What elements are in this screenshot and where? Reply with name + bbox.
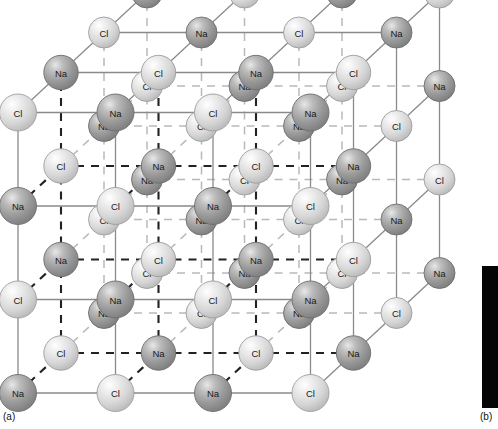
atom-label: Na (433, 268, 446, 279)
atom-chlorine: Cl (292, 188, 329, 225)
atom-sodium: Na (186, 17, 217, 48)
atom-label: Cl (392, 121, 401, 132)
atom-label: Cl (209, 295, 218, 306)
atom-label: Cl (349, 255, 358, 266)
atom-label: Na (347, 161, 360, 172)
sphere-chlorine (424, 0, 455, 8)
caption-b: (b) (480, 411, 492, 422)
atom-chlorine: Cl (239, 149, 273, 183)
sphere-sodium (327, 0, 358, 8)
atom-label: Cl (435, 175, 444, 186)
atom-label: Cl (100, 28, 109, 39)
atom-sodium: Na (239, 242, 273, 276)
atom-chlorine: Cl (381, 111, 412, 142)
atom-chlorine: Cl (424, 164, 455, 195)
atom-label: Cl (154, 255, 163, 266)
atom-label: Cl (252, 161, 261, 172)
atom-label: Cl (14, 108, 23, 119)
atom-chlorine: Cl (97, 188, 134, 225)
atom-label: Na (304, 108, 317, 119)
atom-sodium: Na (336, 336, 370, 370)
atom-chlorine: Cl (239, 336, 273, 370)
atom-chlorine: Cl (44, 336, 78, 370)
atom-label: Na (390, 28, 403, 39)
atom-label: Na (250, 68, 263, 79)
atom-chlorine: Cl (89, 17, 120, 48)
atom-label: Cl (392, 308, 401, 319)
atom-label: Na (195, 28, 208, 39)
atom-sodium: Na (141, 336, 175, 370)
atom-chlorine: Cl (141, 55, 175, 89)
atom-chlorine: Cl (381, 298, 412, 329)
atom-sodium: Na (44, 242, 78, 276)
atom-label: Na (55, 68, 68, 79)
atom-chlorine: Cl (292, 375, 329, 412)
atom-sodium: Na (0, 375, 37, 412)
atom-sodium: Na (424, 71, 455, 102)
panel-b-photo (482, 266, 498, 408)
atom-chlorine: Cl (195, 281, 232, 318)
atom-sodium: Na (44, 55, 78, 89)
atom-label: Cl (209, 108, 218, 119)
atom-chlorine: Cl (141, 242, 175, 276)
atom-chlorine: Cl (97, 375, 134, 412)
atom-chlorine: Cl (0, 281, 37, 318)
atom-label: Cl (306, 201, 315, 212)
atom-chlorine: Cl (424, 0, 455, 8)
atom-sodium: Na (424, 258, 455, 289)
atom-label: Na (12, 388, 25, 399)
atom-label: Cl (154, 68, 163, 79)
atom-label: Na (347, 348, 360, 359)
atom-sodium: Na (336, 149, 370, 183)
atom-sodium: Na (195, 188, 232, 225)
atom-label: Cl (111, 201, 120, 212)
atom-chlorine: Cl (336, 55, 370, 89)
atom-label: Na (152, 161, 165, 172)
atom-sodium: Na (141, 149, 175, 183)
atom-sodium: Na (327, 0, 358, 8)
atom-sodium: Na (292, 94, 329, 131)
atom-label: Cl (14, 295, 23, 306)
atom-sodium: Na (195, 375, 232, 412)
atom-sodium: Na (292, 281, 329, 318)
caption-a: (a) (3, 411, 15, 422)
atom-sodium: Na (381, 17, 412, 48)
atom-label: Na (207, 201, 220, 212)
atom-sodium: Na (239, 55, 273, 89)
atom-sodium: Na (0, 188, 37, 225)
atom-label: Cl (57, 348, 66, 359)
atom-label: Cl (57, 161, 66, 172)
atom-label: Na (304, 295, 317, 306)
atom-label: Cl (306, 388, 315, 399)
atom-sodium: Na (132, 0, 163, 8)
atom-label: Na (152, 348, 165, 359)
sphere-chlorine (229, 0, 260, 8)
atom-label: Cl (295, 28, 304, 39)
atom-label: Na (109, 108, 122, 119)
nacl-crystal-figure: NaClNaClClNaClNaNaClNaClClNaClNaClNaClNa… (0, 0, 498, 429)
atom-sodium: Na (97, 281, 134, 318)
atom-chlorine: Cl (0, 94, 37, 131)
atom-chlorine: Cl (195, 94, 232, 131)
sphere-sodium (132, 0, 163, 8)
crystal-lattice-diagram: NaClNaClClNaClNaNaClNaClClNaClNaClNaClNa… (0, 0, 498, 429)
atom-label: Cl (111, 388, 120, 399)
atom-label: Na (109, 295, 122, 306)
atom-label: Na (433, 81, 446, 92)
atom-label: Na (12, 201, 25, 212)
atom-chlorine: Cl (44, 149, 78, 183)
atom-chlorine: Cl (336, 242, 370, 276)
atom-label: Na (250, 255, 263, 266)
atom-label: Na (207, 388, 220, 399)
atom-sodium: Na (97, 94, 134, 131)
atom-label: Cl (252, 348, 261, 359)
atom-label: Cl (349, 68, 358, 79)
atom-label: Na (390, 215, 403, 226)
atom-chlorine: Cl (284, 17, 315, 48)
atom-chlorine: Cl (229, 0, 260, 8)
atom-sodium: Na (381, 204, 412, 235)
atom-label: Na (55, 255, 68, 266)
